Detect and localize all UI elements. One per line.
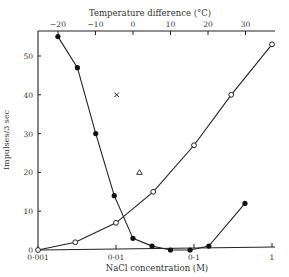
x-tick-label: 0·01	[108, 253, 125, 262]
data-point	[168, 247, 173, 252]
data-point	[93, 131, 98, 136]
y-tick-label: 30	[23, 130, 33, 139]
data-point	[206, 244, 211, 249]
top-tick-label: 0	[131, 20, 136, 29]
y-tick-label: 40	[23, 91, 33, 100]
top-tick-label: −10	[88, 20, 104, 29]
data-point	[187, 247, 192, 252]
x-tick-label: 1	[270, 253, 275, 262]
data-point	[75, 65, 80, 70]
data-point	[114, 93, 118, 97]
y-tick-label: 10	[23, 207, 33, 216]
y-tick-label: 50	[23, 52, 33, 61]
series-filled-circle	[55, 34, 247, 253]
data-point	[130, 236, 135, 241]
chart: 0·0010·010·1101020304050−20−100102030 Na…	[0, 0, 289, 277]
data-series	[36, 34, 275, 253]
y-axis-label: Impulses/3 sec	[2, 109, 11, 170]
data-point	[229, 92, 234, 97]
top-axis-label: Temperature difference (°C)	[89, 8, 211, 18]
data-point	[270, 42, 275, 47]
series-cross	[114, 93, 118, 97]
data-point	[114, 220, 119, 225]
top-tick-label: 30	[241, 20, 251, 29]
series-line	[58, 37, 245, 250]
y-tick-label: 20	[23, 168, 33, 177]
series-open-circle	[36, 42, 275, 252]
data-point	[137, 170, 143, 175]
data-point	[149, 244, 154, 249]
x-axis-label: NaCl concentration (M)	[106, 263, 208, 273]
series-line	[38, 44, 272, 250]
y-tick-label: 0	[28, 246, 33, 255]
data-point	[36, 248, 41, 253]
top-tick-label: 10	[166, 20, 176, 29]
data-point	[151, 189, 156, 194]
data-point	[55, 34, 60, 39]
data-point	[73, 240, 78, 245]
axes: 0·0010·010·1101020304050−20−100102030	[23, 20, 275, 262]
data-point	[112, 193, 117, 198]
x-tick-label: 0·1	[188, 253, 200, 262]
series-open-triangle	[137, 170, 143, 175]
data-point	[192, 143, 197, 148]
top-tick-label: 20	[203, 20, 213, 29]
data-point	[242, 201, 247, 206]
top-tick-label: −20	[50, 20, 66, 29]
